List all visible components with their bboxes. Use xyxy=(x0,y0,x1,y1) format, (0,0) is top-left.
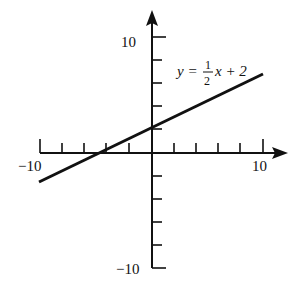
y-max-label: 10 xyxy=(121,34,136,50)
x-min-label: −10 xyxy=(18,158,41,174)
x-max-label: 10 xyxy=(252,158,267,174)
eq-numerator: 1 xyxy=(205,58,211,72)
y-min-label: −10 xyxy=(116,261,139,277)
eq-y: y = xyxy=(175,63,198,79)
eq-denominator: 2 xyxy=(204,74,210,88)
eq-rest: x + 2 xyxy=(214,63,247,79)
equation-annotation: y = 1 2 x + 2 xyxy=(175,58,247,88)
chart-canvas: 10 −10 −10 10 y = 1 2 x + 2 xyxy=(0,0,306,295)
